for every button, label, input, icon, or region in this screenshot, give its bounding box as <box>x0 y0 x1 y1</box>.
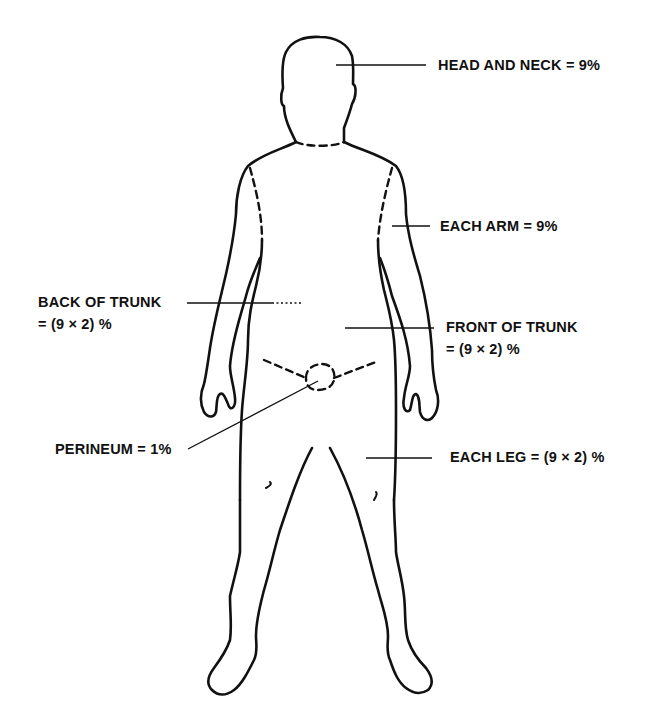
label-back-of-trunk-line2: = (9 × 2) % <box>38 313 161 335</box>
label-head-and-neck: HEAD AND NECK = 9% <box>438 54 600 76</box>
left-shoulder-arm-outer <box>201 142 296 417</box>
left-arm-boundary <box>250 168 262 240</box>
rule-of-nines-diagram: HEAD AND NECK = 9% EACH ARM = 9% BACK OF… <box>0 0 664 710</box>
label-front-of-trunk-line2: = (9 × 2) % <box>446 338 578 360</box>
right-leg-outer <box>330 448 432 693</box>
right-shoulder-arm-outer <box>344 142 438 420</box>
label-each-leg-text: EACH LEG = (9 × 2) % <box>450 449 605 465</box>
perineum-boundary <box>306 364 334 390</box>
label-head-and-neck-text: HEAD AND NECK = 9% <box>438 57 600 73</box>
label-each-arm: EACH ARM = 9% <box>440 215 558 237</box>
neck-boundary <box>296 142 344 146</box>
label-perineum: PERINEUM = 1% <box>55 438 172 460</box>
label-front-of-trunk-line1: FRONT OF TRUNK <box>446 316 578 338</box>
head-outline <box>281 37 355 142</box>
label-each-leg: EACH LEG = (9 × 2) % <box>450 446 605 468</box>
label-back-of-trunk: BACK OF TRUNK = (9 × 2) % <box>38 291 161 335</box>
right-groin-boundary <box>334 362 376 378</box>
left-leg-outer <box>208 448 312 695</box>
left-groin-boundary <box>264 360 306 378</box>
right-arm-boundary <box>378 168 392 240</box>
label-each-arm-text: EACH ARM = 9% <box>440 218 558 234</box>
label-perineum-text: PERINEUM = 1% <box>55 441 172 457</box>
label-front-of-trunk: FRONT OF TRUNK = (9 × 2) % <box>446 316 578 360</box>
label-back-of-trunk-line1: BACK OF TRUNK <box>38 291 161 313</box>
